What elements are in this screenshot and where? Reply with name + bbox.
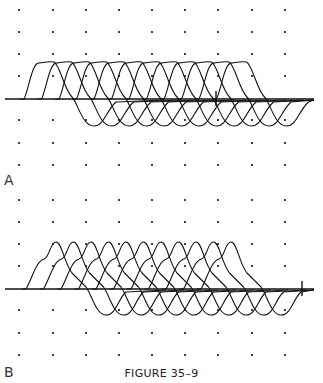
- grid-dot: [151, 265, 153, 267]
- grid-dot: [251, 142, 253, 144]
- grid-dot: [18, 309, 20, 311]
- grid-dot: [52, 199, 54, 201]
- grid-dot: [251, 164, 253, 166]
- figure-caption: FIGURE 35–9: [0, 367, 323, 380]
- waveform-trace: [197, 242, 314, 315]
- figure-panel-a: A: [0, 0, 323, 190]
- waveform-trace: [160, 62, 304, 126]
- grid-dot: [184, 164, 186, 166]
- grid-dot: [151, 9, 153, 11]
- grid-dot: [284, 119, 286, 121]
- grid-dot: [217, 53, 219, 55]
- panel-label-a: A: [4, 172, 14, 188]
- grid-dot: [85, 354, 87, 356]
- grid-dot: [184, 221, 186, 223]
- grid-dot: [151, 119, 153, 121]
- grid-dot: [52, 53, 54, 55]
- waveform-trace: [162, 242, 306, 315]
- grid-dot: [151, 354, 153, 356]
- grid-dot: [118, 243, 120, 245]
- grid-dot: [217, 31, 219, 33]
- grid-dot: [251, 309, 253, 311]
- grid-dot: [184, 9, 186, 11]
- grid-dot: [184, 354, 186, 356]
- waveform-trace: [75, 242, 219, 315]
- grid-dot: [52, 31, 54, 33]
- grid-dot: [251, 243, 253, 245]
- grid-dot: [18, 265, 20, 267]
- grid-dot: [118, 221, 120, 223]
- grid-dot: [184, 119, 186, 121]
- grid-dot: [251, 31, 253, 33]
- waveform-trace: [38, 62, 182, 126]
- grid-dot: [284, 309, 286, 311]
- grid-dot: [18, 221, 20, 223]
- grid-dot: [85, 9, 87, 11]
- grid-dot: [52, 332, 54, 334]
- grid-dot: [85, 53, 87, 55]
- grid-dot: [151, 199, 153, 201]
- grid-dot: [217, 221, 219, 223]
- grid-dot: [284, 265, 286, 267]
- grid-dot: [217, 265, 219, 267]
- waveform-trace: [195, 62, 314, 126]
- waveform-trace: [92, 242, 236, 315]
- grid-dot: [217, 199, 219, 201]
- grid-dot: [85, 164, 87, 166]
- grid-dot: [284, 221, 286, 223]
- grid-dot: [118, 31, 120, 33]
- grid-dot: [52, 309, 54, 311]
- grid-dot: [52, 164, 54, 166]
- grid-dot: [18, 119, 20, 121]
- grid-dot: [52, 354, 54, 356]
- grid-dot: [284, 354, 286, 356]
- grid-dot: [18, 31, 20, 33]
- grid-dot: [151, 31, 153, 33]
- grid-dot: [151, 221, 153, 223]
- grid-dot: [217, 164, 219, 166]
- grid-dot: [118, 332, 120, 334]
- grid-dot: [18, 354, 20, 356]
- waveform-trace: [73, 62, 217, 126]
- waveform-trace: [145, 242, 289, 315]
- grid-dot: [118, 164, 120, 166]
- waveform-trace: [127, 242, 271, 315]
- grid-dot: [18, 53, 20, 55]
- grid-dot: [118, 53, 120, 55]
- grid-dot: [284, 142, 286, 144]
- grid-dot: [184, 53, 186, 55]
- grid-dot: [251, 53, 253, 55]
- grid-dot: [18, 243, 20, 245]
- grid-dot: [151, 332, 153, 334]
- grid-dot: [151, 53, 153, 55]
- grid-dot: [217, 332, 219, 334]
- grid-dot: [52, 221, 54, 223]
- waveform-trace: [143, 62, 287, 126]
- grid-dot: [52, 75, 54, 77]
- waveform-trace: [125, 62, 269, 126]
- grid-dot: [184, 332, 186, 334]
- grid-dot: [18, 9, 20, 11]
- grid-dot: [251, 9, 253, 11]
- grid-dot: [85, 309, 87, 311]
- figure-panel-b: B: [0, 190, 323, 383]
- grid-dot: [217, 142, 219, 144]
- grid-dot: [151, 142, 153, 144]
- grid-dot: [184, 142, 186, 144]
- grid-dot: [184, 199, 186, 201]
- grid-dot: [184, 265, 186, 267]
- grid-dot: [284, 199, 286, 201]
- grid-dot: [251, 354, 253, 356]
- grid-dot: [18, 164, 20, 166]
- grid-dot: [52, 9, 54, 11]
- grid-dot: [52, 119, 54, 121]
- grid-dot: [85, 142, 87, 144]
- grid-dot: [284, 164, 286, 166]
- grid-dot: [217, 119, 219, 121]
- waveform-trace: [108, 62, 252, 126]
- grid-dot: [118, 354, 120, 356]
- grid-dot: [118, 142, 120, 144]
- grid-dot: [151, 164, 153, 166]
- grid-dot: [118, 9, 120, 11]
- grid-dot: [184, 31, 186, 33]
